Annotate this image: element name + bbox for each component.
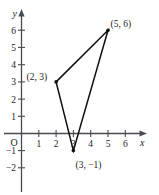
coordinate-plane-figure: y x O 1 2 3 4 5 6 bbox=[0, 0, 159, 195]
x-axis-arrowhead bbox=[140, 130, 148, 136]
vertex-point-2-3 bbox=[54, 80, 58, 84]
y-axis-label: y bbox=[12, 8, 18, 19]
x-tick-label: 6 bbox=[123, 139, 128, 149]
y-tick-label: −1 bbox=[6, 146, 16, 156]
y-axis-tick-labels: −2 −1 1 2 3 4 5 6 bbox=[6, 26, 16, 174]
x-axis-label: x bbox=[139, 137, 145, 148]
x-tick-label: 5 bbox=[106, 139, 111, 149]
vertex-label-3-minus1: (3, −1) bbox=[76, 160, 102, 171]
y-tick-label: 3 bbox=[11, 77, 16, 87]
triangle-plot-svg: y x O 1 2 3 4 5 6 bbox=[0, 0, 159, 195]
x-tick-label: 1 bbox=[36, 139, 41, 149]
y-tick-label: 5 bbox=[11, 43, 16, 53]
x-tick-label: 2 bbox=[54, 139, 59, 149]
y-tick-label: −2 bbox=[6, 163, 16, 173]
vertex-point-5-6 bbox=[106, 28, 110, 32]
y-axis-arrowhead bbox=[18, 9, 24, 17]
vertex-point-3-minus1 bbox=[72, 149, 76, 153]
vertex-label-2-3: (2, 3) bbox=[27, 72, 48, 83]
vertex-label-5-6: (5, 6) bbox=[111, 19, 132, 30]
y-tick-label: 2 bbox=[11, 95, 16, 105]
y-tick-label: 4 bbox=[11, 60, 16, 70]
x-axis-tick-labels: 1 2 3 4 5 6 bbox=[36, 139, 128, 149]
y-tick-label: 6 bbox=[11, 26, 16, 36]
x-tick-label: 4 bbox=[88, 139, 93, 149]
triangle-shape bbox=[56, 30, 108, 150]
y-tick-label: 1 bbox=[11, 112, 16, 122]
